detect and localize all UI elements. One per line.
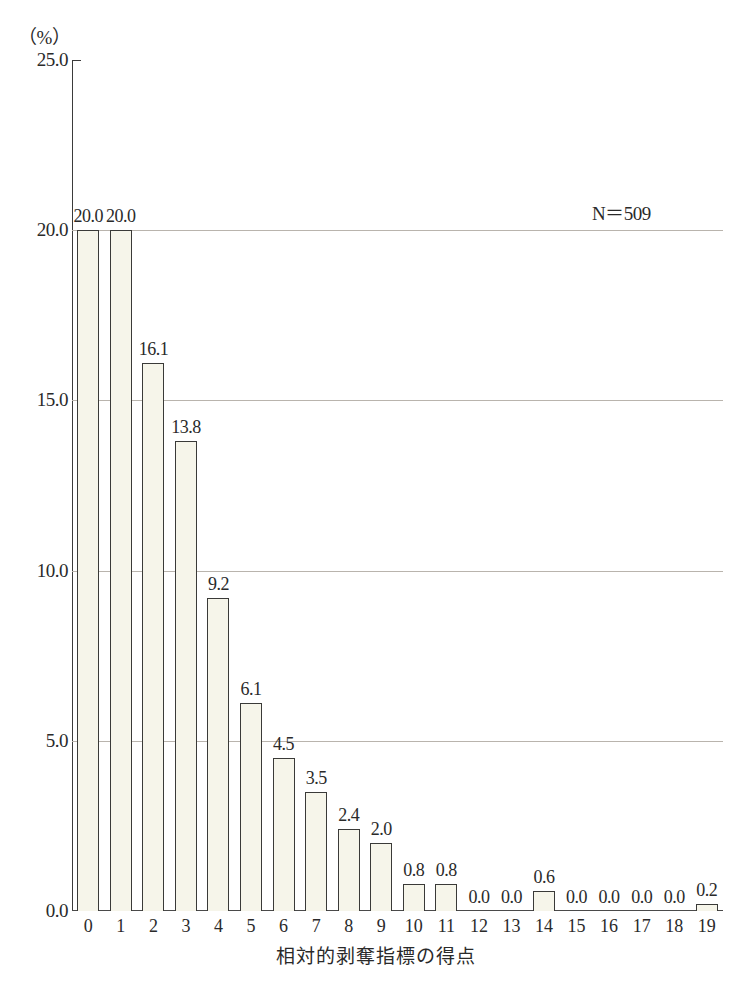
- gridline: [72, 230, 723, 231]
- y-axis-line: [72, 60, 73, 911]
- bar: [370, 843, 392, 911]
- y-axis-tick-label: 15.0: [4, 389, 68, 411]
- x-axis-line: [72, 910, 723, 911]
- x-axis-title: 相対的剥奪指標の得点: [0, 941, 751, 968]
- bar-value-label: 0.6: [523, 867, 565, 888]
- x-axis-tick-label: 19: [687, 916, 727, 937]
- bar: [207, 598, 229, 911]
- y-axis-tick-label: 20.0: [4, 219, 68, 241]
- y-axis-top-tick: [72, 60, 81, 61]
- bar: [77, 230, 99, 911]
- y-axis-tick-label: 5.0: [4, 730, 68, 752]
- bar: [696, 904, 718, 911]
- bar-value-label: 2.0: [360, 819, 402, 840]
- bar: [273, 758, 295, 911]
- bar: [110, 230, 132, 911]
- bar-value-label: 20.0: [100, 206, 142, 227]
- bar: [305, 792, 327, 911]
- bar: [142, 363, 164, 911]
- gridline: [72, 571, 723, 572]
- bar-value-label: 0.0: [490, 887, 532, 908]
- bar-value-label: 13.8: [165, 417, 207, 438]
- y-axis-tick-label: 10.0: [4, 560, 68, 582]
- bar-value-label: 9.2: [197, 574, 239, 595]
- bar-value-label: 3.5: [295, 768, 337, 789]
- bar: [338, 829, 360, 911]
- bar-chart-figure: （%） 0.05.010.015.020.025.0 20.020.016.11…: [0, 0, 751, 981]
- y-axis-unit-label: （%）: [18, 22, 70, 49]
- y-axis-tick-label: 25.0: [4, 49, 68, 71]
- bar: [240, 703, 262, 911]
- sample-size-annotation: N＝509: [592, 198, 651, 225]
- bar-value-label: 0.2: [686, 880, 728, 901]
- bar: [175, 441, 197, 911]
- bar-value-label: 16.1: [132, 339, 174, 360]
- bar-value-label: 0.8: [425, 860, 467, 881]
- gridline: [72, 400, 723, 401]
- bar: [435, 884, 457, 911]
- bar: [403, 884, 425, 911]
- gridline: [72, 741, 723, 742]
- bar: [533, 891, 555, 911]
- bar-value-label: 6.1: [230, 679, 272, 700]
- bar-value-label: 4.5: [263, 734, 305, 755]
- y-axis-tick-label: 0.0: [4, 900, 68, 922]
